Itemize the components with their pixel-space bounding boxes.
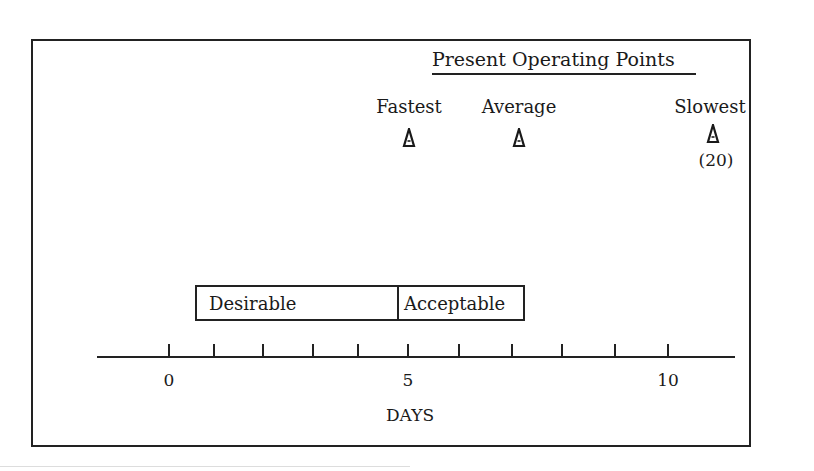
range-acceptable: Acceptable — [397, 285, 525, 321]
axis-tick — [262, 344, 264, 357]
tick-label-5: 5 — [403, 370, 414, 390]
axis-tick — [511, 344, 513, 357]
axis-tick — [667, 344, 669, 357]
axis-tick — [357, 344, 359, 357]
tick-label-0: 0 — [164, 370, 175, 390]
triangle-marker-icon — [512, 128, 526, 148]
point-label-average: Average — [482, 96, 557, 117]
triangle-marker-icon — [402, 128, 416, 148]
slowest-value-note: (20) — [699, 150, 734, 170]
axis-tick — [561, 344, 563, 357]
days-axis-line — [97, 356, 735, 358]
range-desirable: Desirable — [195, 285, 399, 321]
point-label-slowest: Slowest — [674, 96, 745, 117]
point-label-fastest: Fastest — [376, 96, 442, 117]
axis-tick — [614, 344, 616, 357]
range-acceptable-label: Acceptable — [404, 293, 505, 314]
axis-title: DAYS — [386, 405, 434, 425]
tick-label-10: 10 — [657, 370, 679, 390]
axis-tick — [407, 344, 409, 357]
axis-tick — [312, 344, 314, 357]
title-underline — [432, 73, 696, 75]
scan-edge-line — [0, 466, 410, 467]
diagram-title: Present Operating Points — [432, 48, 675, 70]
axis-tick — [458, 344, 460, 357]
axis-tick — [168, 344, 170, 357]
axis-tick — [213, 344, 215, 357]
range-desirable-label: Desirable — [209, 293, 296, 314]
triangle-marker-icon — [706, 124, 720, 144]
